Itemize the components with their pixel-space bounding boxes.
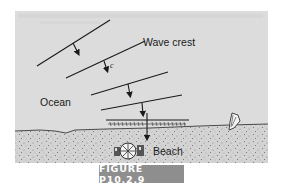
wave-refraction-figure: Wave crest c Ocean Beach FIGURE P10.2.9 (0, 0, 281, 191)
ocean-label: Ocean (40, 97, 71, 108)
beach-label: Beach (153, 146, 183, 157)
celerity-label: c (110, 62, 114, 70)
figure-caption: FIGURE P10.2.9 (99, 165, 184, 183)
wave-crest-label: Wave crest (143, 37, 195, 48)
